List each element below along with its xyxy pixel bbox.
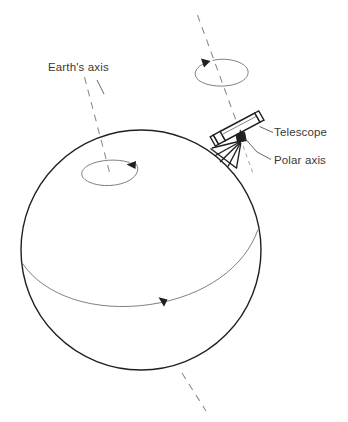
polar-axis-dashed-lower [243,146,254,176]
equator-arc-front [23,230,258,307]
earth-telescope-diagram: Polar-aligned telescope on the rotating … [0,0,348,422]
label-telescope: Telescope [274,126,327,138]
earth-axis-dashed-lower [182,373,206,411]
polar-axis-dashed-upper [198,15,242,134]
telescope-leader [260,127,274,133]
diagram-canvas: Polar-aligned telescope on the rotating … [0,0,348,422]
equator-direction-arrow [159,297,168,307]
label-polar-axis: Polar axis [274,154,326,166]
earth-axis-dashed-upper [85,77,111,174]
polar-axis-leader [246,139,272,160]
earth-axis-leader [97,80,104,94]
polar-rotation-arrow [201,59,211,68]
earth-globe-outline [21,130,261,370]
label-earth-axis: Earth's axis [48,61,109,73]
